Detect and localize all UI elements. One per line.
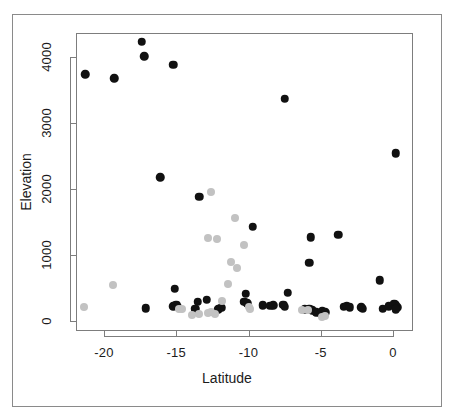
x-tick--10 xyxy=(249,330,250,337)
data-point-black xyxy=(345,303,354,312)
data-point-black xyxy=(392,305,401,314)
data-point-gray xyxy=(233,264,241,272)
y-tick-label-3000: 3000 xyxy=(39,108,54,138)
data-point-gray xyxy=(246,305,254,313)
data-point-black xyxy=(280,303,289,312)
x-tick--20 xyxy=(104,330,105,337)
y-tick-label-1000: 1000 xyxy=(39,240,54,270)
x-tick--5 xyxy=(321,330,322,337)
data-point-gray xyxy=(224,280,232,288)
y-tick-label-4000: 4000 xyxy=(39,42,54,72)
data-point-black xyxy=(358,305,367,314)
y-tick-label-0: 0 xyxy=(39,317,54,324)
data-point-gray xyxy=(218,297,226,305)
data-point-black xyxy=(81,70,90,79)
data-point-black xyxy=(142,304,151,313)
x-tick-label--10: -10 xyxy=(239,345,258,360)
data-point-black xyxy=(156,173,165,182)
data-point-black xyxy=(306,233,315,242)
x-tick-label--20: -20 xyxy=(94,345,113,360)
data-point-black xyxy=(169,61,178,70)
plot-panel xyxy=(76,33,413,331)
data-point-black xyxy=(195,193,204,202)
data-point-black xyxy=(202,296,211,305)
y-axis-title: Elevation xyxy=(18,153,34,211)
x-tick-label--5: -5 xyxy=(315,345,327,360)
data-point-gray xyxy=(207,188,215,196)
data-point-black xyxy=(283,288,292,297)
data-point-gray xyxy=(213,235,221,243)
x-tick--15 xyxy=(176,330,177,337)
data-point-black xyxy=(110,74,119,83)
y-tick-label-2000: 2000 xyxy=(39,174,54,204)
data-point-black xyxy=(171,284,180,293)
data-point-black xyxy=(334,230,343,239)
scatter-plot-area xyxy=(77,34,412,330)
data-point-black xyxy=(137,38,146,47)
data-point-black xyxy=(392,149,401,158)
data-point-gray xyxy=(211,310,219,318)
x-axis-title: Latitude xyxy=(0,370,454,386)
data-point-gray xyxy=(178,305,186,313)
data-point-gray xyxy=(304,306,312,314)
x-tick-label--15: -15 xyxy=(167,345,186,360)
x-tick-0 xyxy=(393,330,394,337)
data-point-gray xyxy=(109,281,117,289)
data-point-gray xyxy=(321,312,329,320)
data-point-black xyxy=(305,259,314,268)
data-point-black xyxy=(280,94,289,103)
data-point-black xyxy=(269,301,278,310)
data-point-gray xyxy=(204,234,212,242)
data-point-black xyxy=(376,276,385,285)
data-point-black xyxy=(249,222,258,231)
data-point-gray xyxy=(195,310,203,318)
x-tick-label-0: 0 xyxy=(389,345,396,360)
data-point-black xyxy=(140,52,149,61)
data-point-gray xyxy=(231,214,239,222)
data-point-gray xyxy=(80,303,88,311)
data-point-gray xyxy=(240,241,248,249)
figure-root: 01000200030004000 Elevation -20-15-10-50… xyxy=(0,0,454,418)
